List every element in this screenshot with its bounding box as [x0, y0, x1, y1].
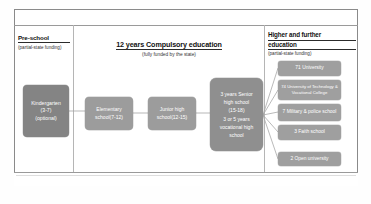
flow-box-senior-high-school-line-5: vocational high — [212, 123, 261, 131]
column-divider-compulsory-higher — [264, 25, 265, 172]
flow-box-junior-high-school-line-1: Junior high — [150, 106, 194, 113]
section-heading-higher-subtitle: (partial-state funding) — [268, 50, 356, 57]
flow-box-elementary-school-line-1: Elementary — [87, 106, 131, 113]
flow-box-junior-high-school-line-2: school(12-15) — [150, 114, 194, 121]
higher-ed-box-faith-school[interactable]: 3 Faith school — [278, 125, 341, 140]
flow-box-senior-high-school-line-6: school — [212, 131, 261, 139]
higher-ed-box-technology-vocational-college[interactable]: 74 University of Technology & Vocational… — [278, 80, 341, 100]
diagram-canvas: Pre-school (partial-state funding) 12 ye… — [0, 0, 371, 204]
section-heading-preschool-subtitle: (partial-state funding) — [18, 43, 70, 51]
flow-box-senior-high-school-line-1: 3 years Senior — [212, 90, 261, 98]
column-divider-preschool-compulsory — [73, 25, 74, 172]
flow-box-senior-high-school-line-4: 3 or 5 years — [212, 115, 261, 123]
section-heading-higher-title-line1: Higher and further — [268, 31, 356, 41]
section-heading-preschool-title: Pre-school — [18, 34, 70, 43]
flow-box-senior-high-school-line-2: high school — [212, 98, 261, 106]
section-heading-higher-title-line2: education — [268, 41, 356, 51]
section-heading-preschool: Pre-school (partial-state funding) — [18, 34, 70, 51]
section-heading-higher: Higher and further education (partial-st… — [268, 31, 356, 57]
flow-box-senior-high-school[interactable]: 3 years Senior high school (15-18) 3 or … — [210, 78, 263, 151]
flow-box-kindergarten-line-3: (optional) — [25, 115, 67, 122]
flow-box-senior-high-school-line-3: (15-18) — [212, 106, 261, 114]
flow-box-kindergarten[interactable]: Kindergarten (3-7) (optional) — [23, 85, 69, 137]
flow-box-kindergarten-line-1: Kindergarten — [25, 100, 67, 107]
section-heading-compulsory-subtitle: (fully funded by the state) — [78, 51, 260, 59]
flow-box-elementary-school-line-2: school(7-12) — [87, 114, 131, 121]
flow-box-kindergarten-line-2: (3-7) — [25, 107, 67, 114]
flow-box-elementary-school[interactable]: Elementary school(7-12) — [85, 97, 133, 130]
section-heading-compulsory: 12 years Compulsory education (fully fun… — [78, 33, 260, 59]
section-heading-compulsory-title: 12 years Compulsory education — [116, 40, 222, 50]
higher-ed-box-university[interactable]: 71 University — [278, 61, 341, 76]
higher-ed-box-military-police-school[interactable]: 7 Military & police school — [278, 104, 341, 121]
diagram-bottom-band-inner-line — [16, 175, 356, 184]
diagram-top-divider — [14, 25, 358, 26]
higher-ed-box-open-university[interactable]: 2 Open university — [278, 152, 341, 166]
flow-box-junior-high-school[interactable]: Junior high school(12-15) — [148, 97, 196, 130]
